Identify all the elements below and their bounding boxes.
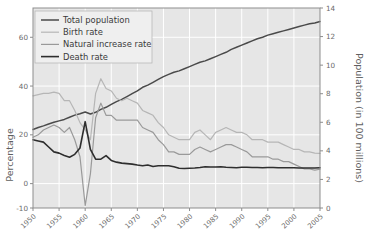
- legend-label-0: Total population: [62, 15, 130, 25]
- y-left-tick-label: 60: [19, 33, 29, 42]
- y-right-tick-label: 0: [326, 204, 331, 213]
- y-right-tick-label: 12: [326, 32, 335, 41]
- y-left-tick-label: 40: [19, 82, 29, 91]
- y-axis-right-title: Population (in 100 millions): [354, 53, 365, 183]
- y-right-tick-label: 4: [326, 146, 331, 155]
- legend-label-3: Death rate: [63, 52, 108, 62]
- y-right-tick-label: 8: [326, 89, 331, 98]
- y-right-tick-label: 6: [326, 118, 331, 127]
- y-left-tick-label: 0: [23, 179, 28, 188]
- y-right-tick-label: 10: [326, 61, 336, 70]
- chart-container: -100204060 02468101214 19501955196019651…: [0, 0, 366, 239]
- y-right-tick-label: 2: [326, 175, 331, 184]
- population-line-chart: -100204060 02468101214 19501955196019651…: [0, 0, 366, 239]
- legend-label-1: Birth rate: [63, 27, 103, 37]
- chart-legend: Total populationBirth rateNatural increa…: [35, 11, 152, 63]
- y-left-tick-label: -10: [16, 204, 28, 213]
- legend-label-2: Natural increase rate: [63, 39, 152, 49]
- y-axis-left-title: Percentage: [4, 128, 15, 182]
- y-left-tick-label: 20: [19, 130, 29, 139]
- y-right-tick-label: 14: [326, 4, 336, 13]
